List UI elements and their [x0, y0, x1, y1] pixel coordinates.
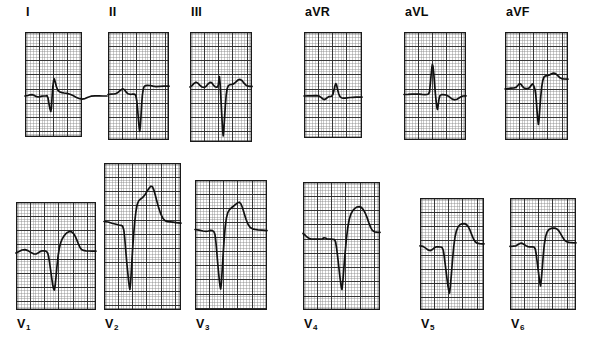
lead-panel-v3: [195, 180, 267, 310]
lead-panel-avl: [404, 32, 466, 140]
lead-label-avl: aVL: [405, 6, 429, 19]
ecg-waveform: [16, 202, 96, 310]
lead-label-avf: aVF: [506, 6, 530, 19]
lead-label-text: V: [196, 317, 205, 331]
lead-label-text: aVF: [506, 5, 530, 19]
ecg-waveform: [510, 198, 576, 310]
lead-label-v6: V6: [511, 318, 524, 331]
ecg-waveform: [108, 32, 169, 140]
lead-panel-v5: [420, 198, 484, 310]
ecg-waveform: [304, 32, 362, 138]
lead-label-text: aVR: [305, 5, 330, 19]
lead-panel-v4: [303, 182, 380, 310]
lead-label-text: V: [421, 317, 430, 331]
lead-label-subscript: 5: [430, 323, 435, 332]
lead-label-text: I: [26, 5, 30, 19]
ecg-waveform: [303, 182, 380, 310]
ecg-waveform: [25, 32, 82, 137]
lead-label-subscript: 4: [313, 323, 318, 332]
lead-label-text: V: [105, 317, 114, 331]
lead-label-i: I: [26, 6, 30, 19]
lead-label-text: V: [17, 317, 26, 331]
ecg-waveform: [404, 32, 466, 140]
ecg-waveform: [190, 32, 252, 142]
lead-label-text: V: [511, 317, 520, 331]
lead-panel-ii: [108, 32, 169, 140]
lead-label-text: aVL: [405, 5, 429, 19]
lead-panel-v1: [16, 202, 96, 310]
lead-panel-i: [25, 32, 82, 137]
lead-panel-v6: [510, 198, 576, 310]
lead-label-subscript: 2: [114, 323, 119, 332]
ecg-waveform: [420, 198, 484, 310]
lead-label-text: V: [304, 317, 313, 331]
lead-label-v1: V1: [17, 318, 30, 331]
ecg-waveform: [195, 180, 267, 310]
ecg-sheet: IIIIIIaVRaVLaVFV1V2V3V4V5V6: [0, 0, 609, 343]
lead-label-subscript: 3: [205, 323, 210, 332]
lead-label-text: II: [109, 5, 116, 19]
lead-panel-avr: [304, 32, 362, 138]
lead-panel-iii: [190, 32, 252, 142]
lead-panel-avf: [505, 32, 568, 140]
lead-label-v3: V3: [196, 318, 209, 331]
lead-panel-v2: [104, 163, 181, 310]
lead-label-avr: aVR: [305, 6, 330, 19]
lead-label-v5: V5: [421, 318, 434, 331]
ecg-waveform: [505, 32, 568, 140]
ecg-waveform: [104, 163, 181, 310]
lead-label-text: III: [191, 5, 202, 19]
lead-label-iii: III: [191, 6, 202, 19]
lead-label-subscript: 6: [520, 323, 525, 332]
lead-label-v4: V4: [304, 318, 317, 331]
lead-label-subscript: 1: [26, 323, 31, 332]
lead-label-ii: II: [109, 6, 116, 19]
lead-label-v2: V2: [105, 318, 118, 331]
